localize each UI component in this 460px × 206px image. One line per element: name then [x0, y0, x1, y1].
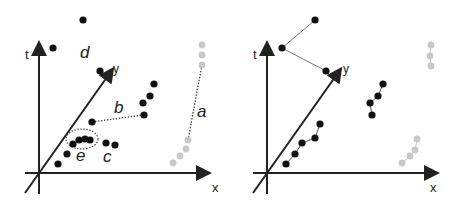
data-point — [96, 67, 103, 74]
data-point — [75, 136, 82, 143]
data-point — [311, 16, 318, 23]
data-point — [150, 80, 157, 87]
data-point — [414, 136, 421, 143]
data-point — [54, 160, 61, 167]
trajectory-top — [282, 20, 326, 71]
data-point — [177, 153, 184, 160]
data-point — [199, 42, 206, 49]
data-point — [199, 62, 206, 69]
data-point — [366, 99, 373, 106]
light-points — [399, 42, 435, 167]
data-point — [86, 136, 93, 143]
trajectories-plot: t y x — [230, 0, 460, 206]
data-point — [199, 52, 206, 59]
label-d: d — [80, 43, 90, 62]
data-point — [170, 160, 177, 167]
label-b: b — [114, 98, 123, 117]
data-point — [139, 99, 146, 106]
data-point — [428, 42, 435, 49]
axis-label-t: t — [253, 47, 257, 62]
diagram-panel-trajectories: t y x — [230, 0, 460, 206]
label-a: a — [197, 102, 206, 121]
axis-label-x: x — [212, 180, 219, 195]
data-point — [146, 92, 153, 99]
data-point — [282, 160, 289, 167]
data-point — [374, 92, 381, 99]
data-point — [111, 141, 118, 148]
label-e: e — [76, 146, 85, 165]
data-point — [49, 44, 56, 51]
data-point — [412, 147, 419, 154]
raw-points-plot: t y x d b a e c — [0, 0, 230, 206]
data-point — [428, 63, 435, 70]
axis-label-t: t — [25, 47, 29, 62]
data-point — [183, 146, 190, 153]
data-point — [316, 120, 323, 127]
data-point — [298, 139, 305, 146]
data-point — [407, 153, 414, 160]
label-c: c — [103, 147, 112, 166]
dark-points — [49, 16, 157, 167]
axis-label-x: x — [430, 180, 437, 195]
axis-label-y: y — [113, 62, 119, 76]
data-point — [185, 137, 192, 144]
data-point — [291, 150, 298, 157]
data-point — [79, 16, 86, 23]
diagram-panel-raw-points: t y x d b a e c — [0, 0, 230, 206]
data-point — [322, 67, 329, 74]
data-point — [379, 80, 386, 87]
data-point — [102, 139, 109, 146]
dark-points — [278, 16, 386, 167]
data-point — [427, 53, 434, 60]
axis-label-y: y — [343, 62, 349, 76]
data-point — [63, 150, 70, 157]
data-point — [278, 44, 285, 51]
data-point — [140, 111, 147, 118]
data-point — [88, 118, 95, 125]
trajectory-mid — [370, 84, 383, 115]
data-point — [368, 111, 375, 118]
data-point — [311, 134, 318, 141]
data-point — [399, 160, 406, 167]
